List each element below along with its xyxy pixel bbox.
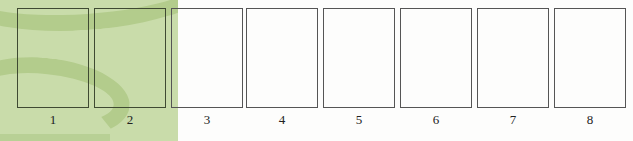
frame-label-8: 8 <box>554 112 626 128</box>
frame-label-3: 3 <box>171 112 243 128</box>
empty-frame-4 <box>246 8 318 108</box>
frame-label-6: 6 <box>400 112 472 128</box>
empty-frame-3 <box>171 8 243 108</box>
empty-frame-2 <box>94 8 166 108</box>
frame-label-1: 1 <box>17 112 89 128</box>
empty-frame-8 <box>554 8 626 108</box>
frame-label-5: 5 <box>323 112 395 128</box>
frame-row: 12345678 <box>0 0 633 141</box>
empty-frame-7 <box>477 8 549 108</box>
frame-label-2: 2 <box>94 112 166 128</box>
empty-frame-1 <box>17 8 89 108</box>
frame-label-7: 7 <box>477 112 549 128</box>
frame-label-4: 4 <box>246 112 318 128</box>
empty-frame-5 <box>323 8 395 108</box>
empty-frame-6 <box>400 8 472 108</box>
